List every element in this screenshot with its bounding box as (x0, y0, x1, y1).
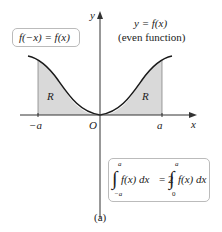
symmetry-identity: f(−x) = f(x) (19, 32, 70, 43)
integral-sign-left: ∫ (112, 168, 117, 188)
lhs-integrand: f(x) dx (121, 174, 149, 185)
rhs-lower-limit: 0 (172, 191, 176, 198)
integral-identity-box: ∫ a −a f(x) dx = 2 ∫ a 0 f(x) dx (108, 158, 210, 202)
figure-caption: (a) (94, 212, 106, 223)
lhs-lower-limit: −a (114, 191, 122, 198)
rhs-upper-limit: a (175, 161, 179, 168)
curve-note: (even function) (118, 32, 186, 43)
x-axis-label: x (191, 119, 196, 130)
tick-label-neg-a: −a (29, 120, 42, 131)
lhs-upper-limit: a (118, 161, 122, 168)
y-axis-label: y (90, 10, 95, 21)
curve-label: y = f(x) (134, 18, 167, 29)
tick-label-pos-a: a (157, 120, 163, 131)
symmetry-identity-box: f(−x) = f(x) (12, 28, 80, 47)
integral-sign-right: ∫ (169, 168, 174, 188)
rhs-integrand: f(x) dx (178, 174, 206, 185)
region-label-left: R (47, 91, 54, 102)
region-label-right: R (142, 91, 149, 102)
origin-label: O (89, 120, 97, 131)
y-axis-arrow-icon (97, 11, 103, 19)
